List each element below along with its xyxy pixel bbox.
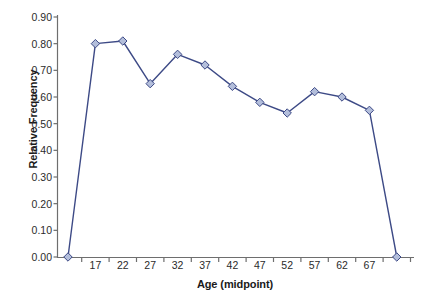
x-axis-tick-labels: 1722273237424752576267 bbox=[0, 260, 422, 276]
x-axis-tick-label: 17 bbox=[80, 260, 110, 271]
x-axis-tick-label: 52 bbox=[272, 260, 302, 271]
x-axis-tick-label: 42 bbox=[217, 260, 247, 271]
x-axis-tick-label: 37 bbox=[190, 260, 220, 271]
x-axis-tick-label: 57 bbox=[300, 260, 330, 271]
data-point-marker bbox=[365, 106, 373, 114]
data-point-marker bbox=[119, 37, 127, 45]
x-axis-title: Age (midpoint) bbox=[55, 278, 415, 290]
data-point-marker bbox=[338, 93, 346, 101]
data-point-marker bbox=[256, 98, 264, 106]
x-axis-tick-label: 32 bbox=[163, 260, 193, 271]
data-series-line bbox=[68, 41, 397, 257]
x-axis-tick-label: 22 bbox=[108, 260, 138, 271]
data-point-marker bbox=[91, 39, 99, 47]
plot-area bbox=[0, 0, 422, 302]
x-axis-tick-label: 62 bbox=[327, 260, 357, 271]
relative-frequency-line-chart: Relative Frequency 0.900.800.700.600.500… bbox=[0, 0, 422, 302]
data-point-markers bbox=[64, 37, 401, 261]
axis-lines bbox=[58, 15, 415, 258]
x-axis-tick-label: 27 bbox=[135, 260, 165, 271]
x-axis-tick-label: 67 bbox=[354, 260, 384, 271]
x-axis-tick-label: 47 bbox=[245, 260, 275, 271]
